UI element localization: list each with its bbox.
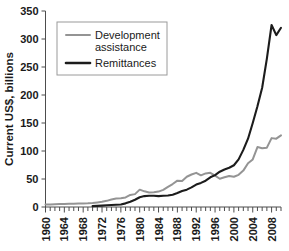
x-tick-label: 1992 [190,217,202,241]
y-tick-label: 50 [26,173,38,185]
x-tick-label: 2000 [228,217,240,241]
x-tick-label: 1980 [134,217,146,241]
x-tick-label: 2004 [247,216,259,241]
y-tick-label: 300 [20,33,38,45]
x-tick-label: 1984 [153,216,165,241]
y-tick-label: 100 [20,145,38,157]
legend-label-development-assistance-line2: assistance [95,41,147,53]
x-tick-label: 1960 [40,217,52,241]
chart-legend: DevelopmentassistanceRemittances [57,22,167,75]
chart-container: Current US$, billions 050100150200250300… [0,0,289,251]
y-tick-label: 200 [20,89,38,101]
x-tick-label: 1972 [96,217,108,241]
y-axis-title: Current US$, billions [3,52,15,166]
y-tick-label: 350 [20,5,38,17]
y-tick-label: 250 [20,61,38,73]
x-tick-label: 1976 [115,217,127,241]
x-axis-ticks: 1960196419681972197619801984198819921996… [40,207,282,241]
y-axis-title-text: Current US$, billions [3,52,15,166]
legend-label-development-assistance-line1: Development [95,29,160,41]
legend-label-remittances: Remittances [95,57,157,69]
y-axis-ticks: 050100150200250300350 [20,5,45,213]
x-tick-label: 1968 [77,217,89,241]
x-tick-label: 1996 [209,217,221,241]
x-tick-label: 2008 [266,217,278,241]
y-tick-label: 0 [32,201,38,213]
y-tick-label: 150 [20,117,38,129]
x-tick-label: 1988 [171,217,183,241]
line-chart: Current US$, billions 050100150200250300… [0,0,289,251]
x-tick-label: 1964 [58,216,70,241]
